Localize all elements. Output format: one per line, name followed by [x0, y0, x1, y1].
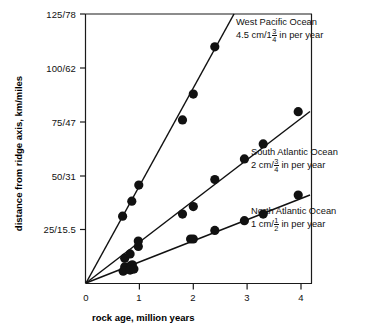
rate-unit-north-atlantic: in per year	[279, 220, 326, 230]
data-point	[240, 216, 249, 225]
data-point	[210, 226, 219, 235]
xtick-label-4: 4	[298, 292, 303, 303]
chart-figure: 125/78 100/62 75/47 50/31 25/15.5 0 1 2 …	[0, 0, 381, 330]
series-label-north-atlantic: North Atlantic Ocean	[251, 205, 336, 217]
rate-fraction-north-atlantic: 12	[274, 217, 279, 233]
series-label-south-atlantic: South Atlantic Ocean	[251, 146, 338, 158]
y-axis-title: distance from ridge axis, km/miles	[13, 59, 24, 249]
data-point	[189, 90, 198, 99]
data-point	[127, 197, 136, 206]
x-axis-title: rock age, million years	[92, 312, 194, 323]
data-point	[178, 210, 187, 219]
rate-fraction-south-atlantic: 34	[274, 158, 279, 174]
rate-fraction-west-pacific: 34	[272, 28, 277, 44]
series-rate-south-atlantic: 2 cm/34 in per year	[251, 158, 338, 174]
data-point	[118, 212, 127, 221]
ytick-label-125: 125/78	[10, 9, 76, 20]
data-point	[210, 42, 219, 51]
data-point	[189, 234, 198, 243]
series-rate-west-pacific: 4.5 cm/134 in per year	[236, 28, 323, 44]
x-tick-marks	[139, 284, 301, 290]
data-points-west-pacific	[118, 42, 219, 263]
data-point	[126, 249, 135, 258]
data-point	[240, 154, 249, 163]
series-label-west-pacific: West Pacific Ocean	[236, 16, 323, 28]
y-tick-marks	[80, 14, 86, 230]
xtick-label-2: 2	[190, 292, 195, 303]
data-point	[210, 175, 219, 184]
data-points-south-atlantic	[120, 107, 303, 271]
rate-unit-south-atlantic: in per year	[279, 161, 326, 171]
series-annotation-south-atlantic: South Atlantic Ocean 2 cm/34 in per year	[251, 146, 338, 174]
xtick-label-1: 1	[136, 292, 141, 303]
data-point	[294, 107, 303, 116]
rate-value-north-atlantic: 1 cm/	[251, 220, 274, 230]
series-annotation-north-atlantic: North Atlantic Ocean 1 cm/12 in per year	[251, 205, 336, 233]
series-annotation-west-pacific: West Pacific Ocean 4.5 cm/134 in per yea…	[236, 16, 323, 44]
data-point	[178, 115, 187, 124]
data-point	[134, 237, 143, 246]
data-point	[189, 202, 198, 211]
xtick-label-3: 3	[244, 292, 249, 303]
rate-unit-west-pacific: in per year	[277, 31, 324, 41]
data-point	[129, 265, 138, 274]
rate-value-west-pacific: 4.5 cm/1	[236, 31, 272, 41]
data-point	[294, 191, 303, 200]
data-point	[134, 181, 143, 190]
series-rate-north-atlantic: 1 cm/12 in per year	[251, 217, 336, 233]
trend-line-south-atlantic	[86, 112, 310, 284]
rate-value-south-atlantic: 2 cm/	[251, 161, 274, 171]
trend-line-west-pacific	[86, 14, 234, 283]
xtick-label-0: 0	[83, 292, 88, 303]
